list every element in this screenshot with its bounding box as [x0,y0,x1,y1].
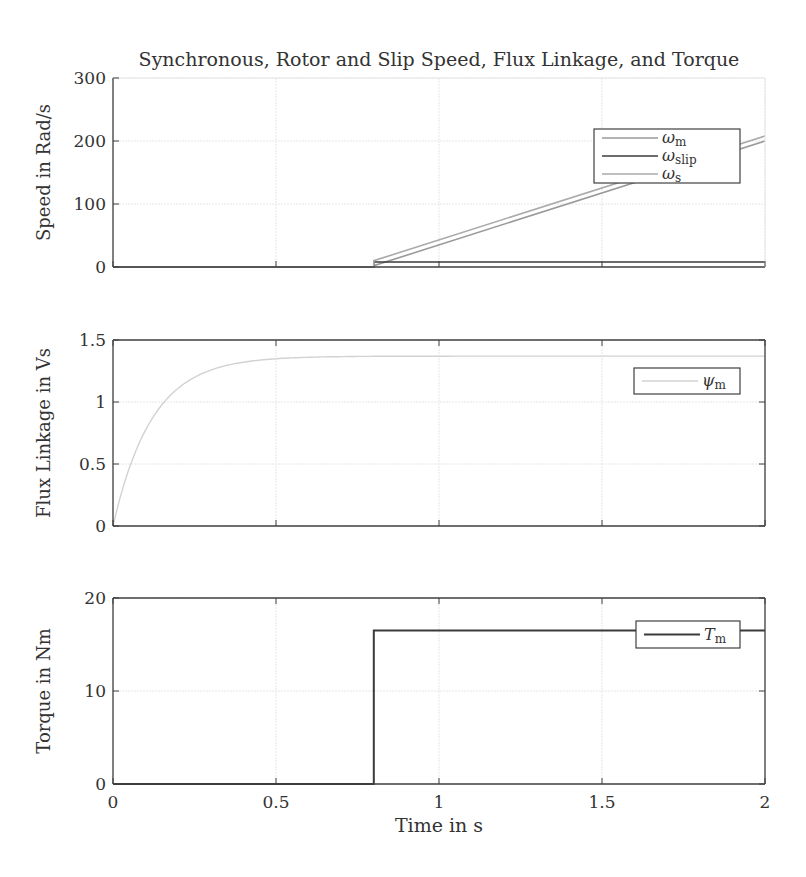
y-tick-label: 0 [95,516,106,536]
y-tick-label: 1 [95,392,106,412]
y-tick-label: 100 [74,194,106,214]
speed-y-axis-label: Speed in Rad/s [33,104,54,241]
flux-linkage-y-axis-label: Flux Linkage in Vs [33,348,54,518]
y-tick-label: 10 [84,681,106,701]
y-tick-label: 0.5 [79,454,106,474]
x-tick-label: 1 [434,792,445,812]
flux-linkage-subplot: 00.511.5Flux Linkage in Vsψm [33,330,765,536]
y-tick-label: 300 [74,68,106,88]
figure: Synchronous, Rotor and Slip Speed, Flux … [0,0,806,877]
y-tick-label: 0 [95,774,106,794]
x-tick-label: 2 [760,792,771,812]
y-tick-label: 1.5 [79,330,106,350]
torque-legend: Tm [636,621,740,648]
y-tick-label: 0 [95,257,106,277]
chart-canvas: Synchronous, Rotor and Slip Speed, Flux … [0,0,806,877]
flux-linkage-legend: ψm [634,368,740,394]
y-tick-label: 20 [84,588,106,608]
x-tick-label: 1.5 [588,792,615,812]
x-tick-label: 0 [108,792,119,812]
torque-y-axis-label: Torque in Nm [33,628,54,753]
speed-subplot: 0100200300Speed in Rad/sωmωslipωs [33,68,765,277]
chart-title: Synchronous, Rotor and Slip Speed, Flux … [139,48,740,70]
torque-subplot: 01020Torque in Nm00.511.52Tm [33,588,770,812]
y-tick-label: 200 [74,131,106,151]
flux-linkage-axes: 00.511.5Flux Linkage in Vs [33,330,765,536]
x-tick-label: 0.5 [262,792,289,812]
speed-legend: ωmωslipωs [594,128,740,185]
x-axis-label: Time in s [395,814,483,836]
